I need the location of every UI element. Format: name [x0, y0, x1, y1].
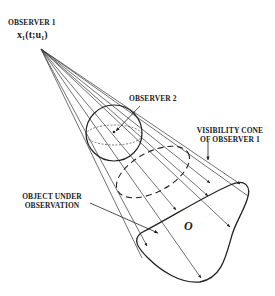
- diagram-graphics: [0, 0, 275, 296]
- observer-1-label: OBSERVER 1: [8, 18, 56, 27]
- visibility-cone-label-line1: VISIBILITY CONE: [184, 126, 275, 135]
- visibility-cone-label-line2: OF OBSERVER 1: [184, 135, 275, 144]
- object-symbol: O: [184, 222, 193, 231]
- object-label-line2: OBSERVATION: [12, 201, 92, 210]
- observer-2-label: OBSERVER 2: [129, 94, 177, 103]
- visibility-cone-diagram: OBSERVER 1 x₁(t;u₁) OBSERVER 2 VISIBILIT…: [0, 0, 275, 296]
- cone-rays: [41, 49, 248, 278]
- observer-1-state-label: x₁(t;u₁): [17, 30, 48, 39]
- object-leader: [90, 203, 158, 233]
- object-label-line1: OBJECT UNDER: [12, 192, 92, 201]
